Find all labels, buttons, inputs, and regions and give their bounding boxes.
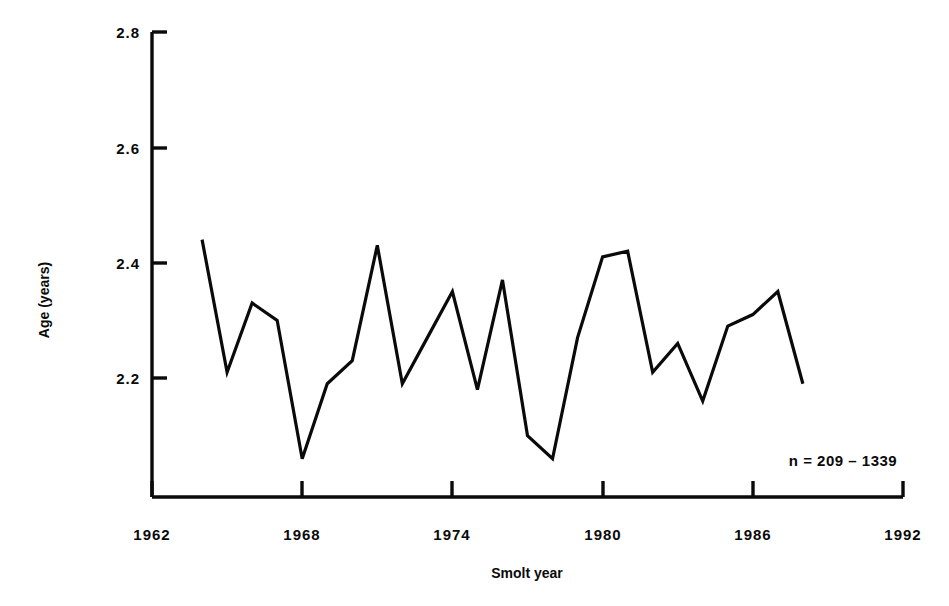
x-tick-label-1962: 1962 bbox=[133, 526, 170, 543]
x-tick-label-1986: 1986 bbox=[734, 526, 771, 543]
x-tick-label-1968: 1968 bbox=[283, 526, 320, 543]
data-series-line bbox=[202, 240, 803, 459]
y-tick-label-2-4: 2.4 bbox=[116, 255, 140, 272]
chart-page: 2.8 2.6 2.4 2.2 1962 1968 1974 1980 1986… bbox=[0, 0, 949, 606]
x-tick-label-1992: 1992 bbox=[884, 526, 921, 543]
x-tick-label-1980: 1980 bbox=[584, 526, 621, 543]
y-tick-label-2-2: 2.2 bbox=[116, 370, 140, 387]
sample-size-annotation: n = 209 – 1339 bbox=[789, 452, 897, 469]
y-axis-title: Age (years) bbox=[36, 262, 52, 338]
y-tick-label-2-6: 2.6 bbox=[116, 140, 140, 157]
line-chart: 2.8 2.6 2.4 2.2 1962 1968 1974 1980 1986… bbox=[0, 0, 949, 606]
y-tick-label-2-8: 2.8 bbox=[116, 24, 140, 41]
x-axis-title: Smolt year bbox=[491, 565, 563, 581]
x-tick-label-1974: 1974 bbox=[433, 526, 470, 543]
